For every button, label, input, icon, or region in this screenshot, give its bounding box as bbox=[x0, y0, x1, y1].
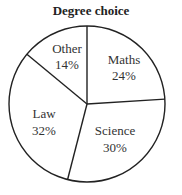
pie-chart: Maths 24% Science 30% Law 32% Other 14% bbox=[0, 0, 182, 195]
slice-label-maths: Maths bbox=[108, 52, 141, 67]
slice-label-science: Science bbox=[95, 123, 136, 138]
slice-label-law: Law bbox=[32, 106, 56, 121]
slice-other: Other 14% bbox=[52, 41, 82, 72]
slice-value-science: 30% bbox=[103, 140, 127, 155]
slice-maths: Maths 24% bbox=[108, 52, 141, 83]
slice-value-law: 32% bbox=[32, 123, 56, 138]
slice-value-other: 14% bbox=[55, 57, 79, 72]
slice-value-maths: 24% bbox=[112, 68, 136, 83]
slice-label-other: Other bbox=[52, 41, 82, 56]
